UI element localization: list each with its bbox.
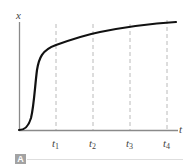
panel-badge: A xyxy=(15,154,26,164)
tick-label-t3: t3 xyxy=(126,137,133,151)
x-axis-label: t xyxy=(179,123,183,135)
chart: x t t1 t2 t3 t4 xyxy=(0,0,196,168)
divider xyxy=(27,159,183,160)
tick-label-t1: t1 xyxy=(52,137,59,151)
curve-x-of-t xyxy=(19,22,176,130)
tick-label-t4: t4 xyxy=(163,137,170,151)
y-axis-label: x xyxy=(15,9,21,21)
tick-label-t2: t2 xyxy=(89,137,96,151)
grid-lines xyxy=(56,20,167,130)
